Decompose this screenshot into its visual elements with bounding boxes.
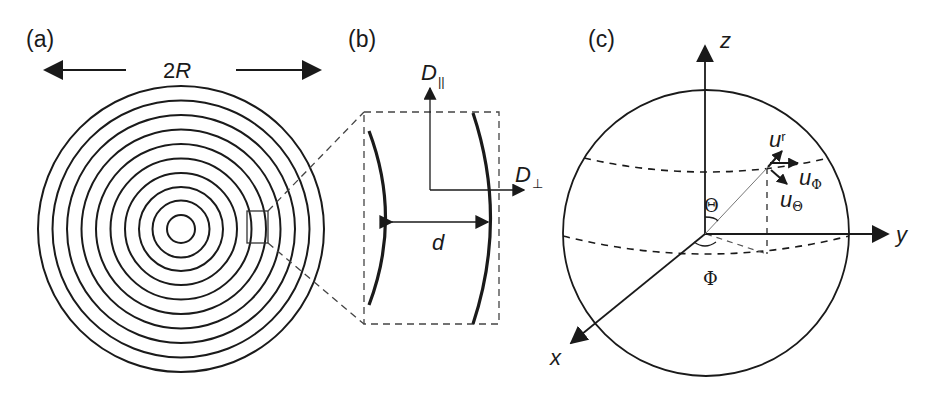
figure-diagram: (a) 2R (b) — [0, 0, 933, 397]
theta-arc — [705, 217, 718, 221]
panel-b-label: (b) — [348, 26, 376, 52]
phi-arc — [694, 242, 716, 246]
d-perpendicular-label: D⊥ — [515, 162, 543, 191]
concentric-rings — [38, 86, 324, 372]
magnify-connectors — [268, 112, 364, 324]
u-phi-label: uΦ — [799, 165, 822, 192]
y-axis-label: y — [894, 222, 909, 247]
layer-right — [473, 113, 491, 324]
ring — [111, 159, 252, 300]
x-axis-arrow-icon — [571, 234, 705, 343]
ring — [67, 115, 295, 343]
u-r-label: ur — [769, 127, 786, 152]
panel-a-label: (a) — [26, 26, 54, 52]
d-parallel-label: D|| — [421, 60, 445, 89]
u-theta-arrow-icon — [771, 170, 787, 184]
equator-circle — [563, 236, 849, 254]
x-axis-label: x — [549, 345, 562, 370]
theta-label: Θ — [704, 195, 719, 216]
connector-bottom — [268, 243, 364, 324]
panel-b: (b) D|| D⊥ d — [348, 26, 543, 324]
diameter-label: 2R — [163, 58, 191, 83]
phi-label: Φ — [703, 268, 718, 289]
ring — [53, 101, 310, 358]
diameter-arrow: 2R — [45, 58, 320, 83]
panel-c: (c) z y x Θ Φ ur uΦ uΘ — [549, 26, 909, 376]
z-axis-label: z — [719, 28, 731, 53]
spacing-label: d — [432, 230, 445, 255]
u-theta-label: uΘ — [780, 187, 803, 214]
ring — [167, 215, 195, 243]
ring — [153, 201, 210, 258]
ring — [96, 144, 266, 314]
ring — [125, 173, 237, 285]
layer-left — [369, 131, 386, 305]
latitude-circle — [584, 158, 829, 172]
panel-c-label: (c) — [588, 26, 615, 52]
u-r-arrow-icon — [768, 151, 782, 167]
